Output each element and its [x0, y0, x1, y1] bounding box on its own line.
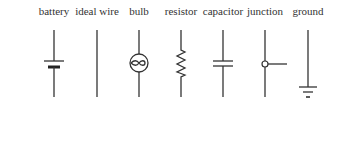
junction-icon [262, 30, 287, 97]
battery-icon [44, 30, 64, 97]
ground-icon [299, 30, 317, 97]
bulb-icon [130, 30, 148, 97]
circuit-symbols-diagram [0, 0, 349, 148]
resistor-icon [177, 30, 185, 97]
capacitor-icon [213, 30, 233, 97]
